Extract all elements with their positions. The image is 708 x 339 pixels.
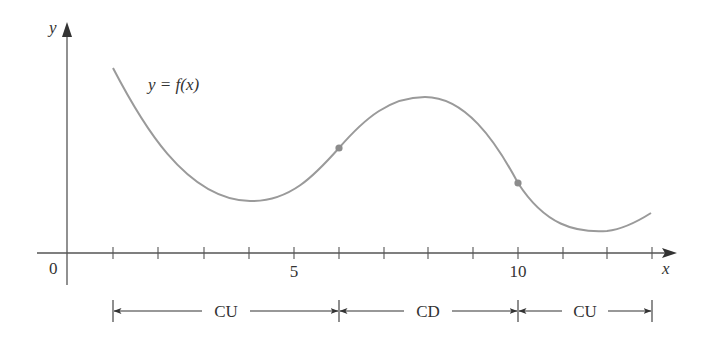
- y-axis: y: [47, 18, 72, 285]
- interval-label-cu-1: CU: [214, 302, 238, 321]
- x-axis: x 0 5 10: [37, 247, 677, 281]
- concavity-intervals: [113, 300, 652, 322]
- origin-label: 0: [49, 259, 58, 278]
- tick-label-5: 5: [290, 262, 299, 281]
- tick-label-10: 10: [510, 262, 527, 281]
- y-axis-label: y: [47, 18, 57, 37]
- x-axis-label: x: [661, 259, 670, 278]
- inflection-point-2: [514, 179, 521, 186]
- concavity-diagram: y x 0 5 10 y = f(x): [0, 0, 708, 339]
- interval-label-cu-2: CU: [573, 302, 597, 321]
- curve-label: y = f(x): [146, 75, 199, 94]
- interval-label-cd: CD: [416, 302, 440, 321]
- y-axis-arrow-icon: [62, 22, 72, 37]
- inflection-point-1: [335, 144, 342, 151]
